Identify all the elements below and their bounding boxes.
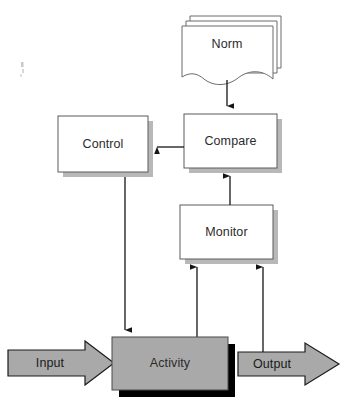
node-input-label: Input	[36, 356, 65, 370]
node-input[interactable]: Input	[8, 341, 114, 385]
node-compare-label: Compare	[204, 134, 256, 148]
node-monitor[interactable]: Monitor	[180, 205, 278, 264]
control-loop-diagram: Norm Compare Control Monitor	[0, 0, 346, 411]
node-compare[interactable]: Compare	[184, 114, 282, 173]
node-norm-label: Norm	[212, 37, 243, 51]
node-activity-label: Activity	[150, 356, 191, 370]
diagram-canvas: Norm Compare Control Monitor	[0, 0, 346, 411]
node-activity[interactable]: Activity	[112, 337, 235, 397]
norm-sheet-front	[182, 26, 273, 85]
node-monitor-label: Monitor	[205, 225, 247, 239]
node-control-label: Control	[83, 137, 124, 151]
node-control[interactable]: Control	[58, 116, 153, 177]
node-output[interactable]: Output	[238, 343, 339, 385]
node-output-label: Output	[253, 357, 292, 371]
node-norm[interactable]: Norm	[182, 16, 281, 85]
scan-artifact	[20, 62, 24, 77]
